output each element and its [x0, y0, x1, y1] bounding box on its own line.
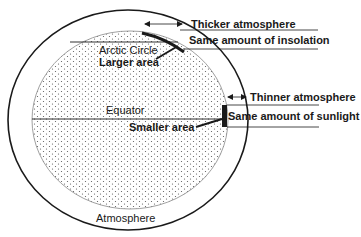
atmosphere-label: Atmosphere [96, 212, 155, 224]
arctic-circle-label: Arctic Circle [99, 44, 158, 56]
insolation-diagram: Thicker atmosphere Same amount of insola… [0, 0, 361, 237]
smaller-area-label: Smaller area [129, 121, 195, 133]
larger-area-label: Larger area [99, 56, 160, 68]
same-insolation-label: Same amount of insolation [189, 34, 330, 46]
same-sunlight-label: Same amount of sunlight [228, 110, 360, 122]
smaller-area-bar [222, 105, 227, 127]
thinner-atmosphere-label: Thinner atmosphere [250, 91, 356, 103]
equator-label: Equator [106, 104, 145, 116]
thicker-atmosphere-label: Thicker atmosphere [191, 18, 296, 30]
